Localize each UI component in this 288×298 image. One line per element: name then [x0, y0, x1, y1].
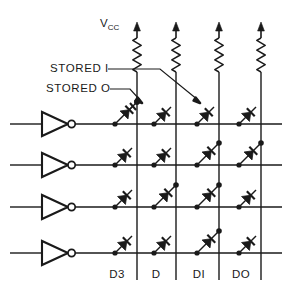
memory-cell-row-2-col-d2[interactable] — [151, 182, 178, 209]
inverter-gate-icon — [42, 153, 75, 177]
resistor-zigzag — [172, 38, 180, 72]
diode-symbol-icon — [197, 107, 214, 124]
resistor-icon — [172, 38, 180, 72]
callout-arrow-head — [136, 98, 142, 103]
vcc-label-text: VCC — [100, 17, 119, 32]
memory-cell-row-2-col-d1[interactable] — [194, 182, 221, 209]
inverter-triangle — [42, 195, 68, 219]
diode-symbol-icon — [154, 107, 171, 124]
diode-symbol-icon — [154, 236, 171, 253]
diode-symbol-icon — [115, 148, 132, 165]
resistor-icon — [257, 38, 265, 72]
diode-symbol-icon — [154, 148, 171, 165]
vcc-label: VCC — [100, 17, 119, 32]
diode-symbol-icon — [197, 185, 219, 207]
inverter-triangle — [42, 112, 68, 136]
diode-symbol-icon — [154, 185, 176, 207]
column-label-col-d1: DI — [193, 268, 205, 280]
memory-cell-row-1-col-d1[interactable] — [194, 140, 221, 167]
supply-arrow-icon — [258, 22, 265, 38]
inverter-bubble — [68, 249, 75, 256]
resistor-icon — [215, 38, 223, 72]
diode-symbol-icon — [239, 143, 261, 165]
inverter-bubble — [68, 161, 75, 168]
inverter-gate-icon — [42, 112, 75, 136]
resistor-icon — [133, 38, 141, 72]
column-junction-dot — [216, 182, 222, 188]
resistor-zigzag — [215, 38, 223, 72]
resistor-zigzag — [133, 38, 141, 72]
diode-rom-schematic: STORED ISTORED OVCCD3DDIDO — [0, 0, 288, 298]
column-label-col-d2: D — [152, 268, 161, 280]
diode-symbol-icon — [239, 107, 256, 124]
inverter-bubble — [68, 120, 75, 127]
callout-leader-line — [110, 89, 140, 100]
diode-symbol-icon — [239, 190, 256, 207]
column-label-col-d0: DO — [232, 268, 250, 280]
inverter-bubble — [68, 203, 75, 210]
callout-arrow-head — [194, 98, 200, 103]
diode-symbol-icon — [239, 236, 256, 253]
inverter-gate-icon — [42, 241, 75, 265]
column-junction-dot — [216, 228, 222, 234]
vcc-subscript: CC — [108, 23, 120, 32]
inverter-gate-icon — [42, 195, 75, 219]
schematic-figure: STORED ISTORED OVCCD3DDIDO — [0, 0, 288, 298]
column-junction-dot — [216, 140, 222, 146]
supply-arrow-icon — [216, 22, 223, 38]
diode-symbol-icon — [115, 190, 132, 207]
column-junction-dot — [258, 140, 264, 146]
inverter-triangle — [42, 153, 68, 177]
column-label-col-d3: D3 — [109, 268, 125, 280]
diode-symbol-icon — [197, 143, 219, 165]
memory-cell-row-1-col-d0[interactable] — [236, 140, 263, 167]
callout-label: STORED O — [46, 82, 111, 94]
diode-symbol-icon — [197, 231, 219, 253]
resistor-zigzag — [257, 38, 265, 72]
memory-cell-row-3-col-d1[interactable] — [194, 228, 221, 255]
diode-symbol-icon — [115, 236, 132, 253]
stored-zero-callout: STORED O — [46, 82, 142, 103]
column-junction-dot — [173, 182, 179, 188]
supply-arrow-icon — [173, 22, 180, 38]
supply-arrow-icon — [134, 22, 141, 38]
callout-label: STORED I — [50, 62, 109, 74]
inverter-triangle — [42, 241, 68, 265]
callout-leader-line — [108, 69, 198, 100]
